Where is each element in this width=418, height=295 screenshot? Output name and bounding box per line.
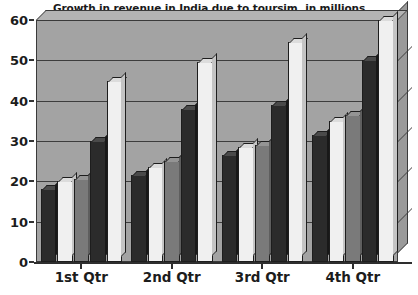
bar [131,175,147,262]
bar [148,167,164,262]
x-tick-mark [352,264,354,269]
bar [57,181,73,262]
x-tick-label: 1st Qtr [55,271,108,285]
x-tick-mark [80,264,82,269]
y-tick-label: 40 [10,94,28,107]
bar [378,20,394,262]
y-tick-label: 0 [19,256,28,269]
bar [362,60,378,262]
y-tick-mark [29,221,34,223]
bar [90,141,106,262]
bar [329,121,345,262]
bar [197,62,213,262]
x-axis-line [34,262,412,264]
bar [345,115,361,262]
bar [312,135,328,262]
bar [255,145,271,262]
bar-side-face [302,33,307,256]
bar [271,105,287,262]
bar-side-face [212,53,217,256]
x-tick-mark [171,264,173,269]
y-tick-label: 10 [10,215,28,228]
y-tick-mark [29,100,34,102]
plot-area [36,20,408,264]
y-tick-label: 30 [10,135,28,148]
y-tick-label: 60 [10,14,28,27]
bar [164,161,180,262]
y-axis: 6050403020100 [2,14,34,270]
y-tick-mark [29,140,34,142]
bar [41,189,57,262]
bar [288,42,304,262]
bar [238,147,254,262]
plot-top-ledge [36,10,408,20]
bar-chart: Growth in revenue in India due to toursi… [0,0,418,295]
y-tick-mark [29,19,34,21]
y-tick-mark [29,59,34,61]
bar-side-face [121,72,126,257]
bar [181,109,197,262]
x-tick-label: 2nd Qtr [143,271,201,285]
x-tick-label: 3rd Qtr [235,271,290,285]
y-tick-mark [29,180,34,182]
y-tick-label: 20 [10,175,28,188]
x-tick-label: 4th Qtr [325,271,380,285]
y-tick-label: 50 [10,54,28,67]
bar [74,179,90,262]
bar [222,155,238,262]
bar-side-face [393,11,398,256]
bar [107,81,123,263]
bars-layer [36,20,398,262]
x-tick-mark [261,264,263,269]
